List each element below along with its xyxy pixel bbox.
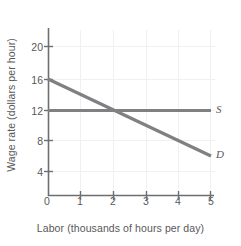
supply-curve-label: S <box>216 104 222 115</box>
plot-area <box>0 0 241 246</box>
vertical-gridlines <box>81 30 211 195</box>
demand-curve-label: D <box>216 149 224 160</box>
demand-curve <box>48 79 211 156</box>
labor-market-chart: Wage rate (dollars per hour) Labor (thou… <box>0 0 241 246</box>
